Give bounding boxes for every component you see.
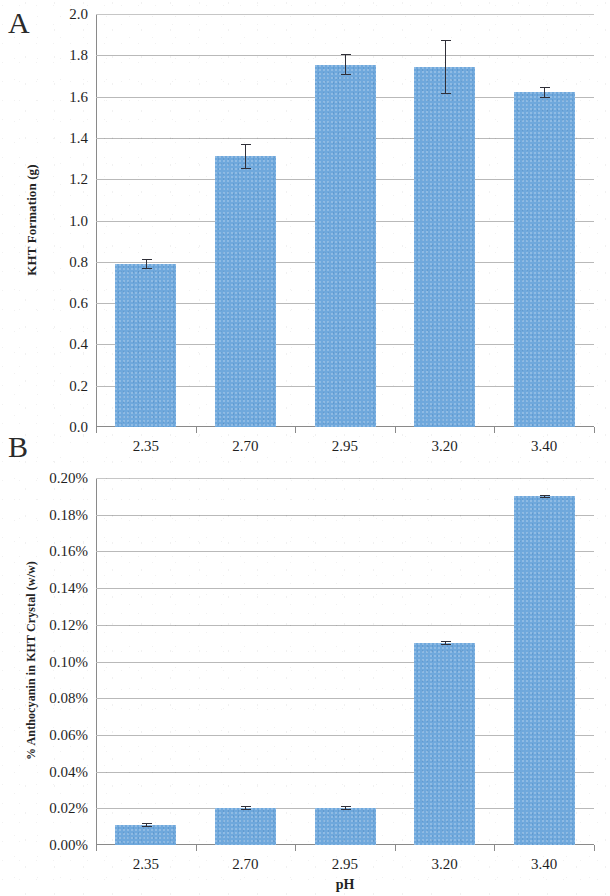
error-bar-cap-bottom: [241, 809, 251, 810]
y-tick-label: 0.08%: [49, 691, 88, 706]
error-bar-cap-top: [341, 54, 351, 55]
bar-3-20: [414, 643, 475, 845]
x-tick-label: 3.40: [494, 857, 594, 872]
x-tick-mark: [295, 845, 296, 851]
y-axis-title-panel-a: KHT Formation (g): [23, 13, 39, 426]
panel-a-kht-formation: A KHT Formation (g) 0.00.20.40.60.81.01.…: [0, 0, 610, 432]
y-tick-label: 1.4: [69, 131, 88, 146]
error-bar-2-35: [146, 259, 147, 269]
y-tick-label: 0.16%: [49, 544, 88, 559]
x-tick-label: 2.95: [295, 857, 395, 872]
x-axis-title-ph: pH: [96, 877, 594, 893]
y-tick-label: 0.04%: [49, 765, 88, 780]
y-tick-label: 0.6: [69, 296, 88, 311]
error-bar-3-40: [544, 87, 545, 97]
error-bar-cap-top: [441, 40, 451, 41]
y-tick-label: 0.8: [69, 255, 88, 270]
error-bar-2-35: [146, 823, 147, 827]
error-bar-cap-bottom: [540, 497, 550, 498]
error-bar-2-70: [245, 144, 246, 169]
error-bar-cap-bottom: [341, 809, 351, 810]
y-tick-label: 0.18%: [49, 508, 88, 523]
y-tick-label: 0.4: [69, 337, 88, 352]
y-tick-label: 1.8: [69, 48, 88, 63]
y-tick-label: 1.6: [69, 90, 88, 105]
gridline: [96, 478, 594, 479]
error-bar-cap-top: [142, 259, 152, 260]
bar-2-70: [215, 156, 276, 427]
y-tick-label: 1.2: [69, 172, 88, 187]
error-bar-3-40: [544, 495, 545, 499]
bar-2-70: [215, 808, 276, 845]
error-bar-cap-bottom: [142, 268, 152, 269]
gridline: [96, 14, 594, 15]
error-bar-2-70: [245, 806, 246, 810]
error-bar-cap-bottom: [441, 644, 451, 645]
y-tick-label: 0.2: [69, 379, 88, 394]
error-bar-3-20: [445, 40, 446, 94]
error-bar-cap-bottom: [241, 168, 251, 169]
x-tick-mark: [395, 845, 396, 851]
figure-two-panel-bar-charts: A KHT Formation (g) 0.00.20.40.60.81.01.…: [0, 0, 610, 896]
error-bar-cap-top: [441, 641, 451, 642]
y-tick-label: 0.12%: [49, 618, 88, 633]
error-bar-cap-top: [241, 806, 251, 807]
error-bar-cap-top: [540, 87, 550, 88]
bar-2-95: [315, 808, 376, 845]
error-bar-cap-bottom: [142, 826, 152, 827]
y-axis-title-panel-b: % Anthocyanin in KHT Crystal (w/w): [24, 477, 39, 844]
error-bar-cap-top: [142, 823, 152, 824]
y-tick-label: 0.02%: [49, 801, 88, 816]
x-tick-mark: [96, 845, 97, 851]
error-bar-2-95: [345, 54, 346, 75]
bar-3-40: [514, 496, 575, 845]
y-tick-label: 0.06%: [49, 728, 88, 743]
error-bar-3-20: [445, 641, 446, 645]
x-tick-label: 2.35: [96, 857, 196, 872]
error-bar-2-95: [345, 806, 346, 810]
y-tick-label: 2.0: [69, 7, 88, 22]
error-bar-cap-top: [540, 495, 550, 496]
error-bar-cap-bottom: [441, 93, 451, 94]
error-bar-cap-top: [341, 806, 351, 807]
error-bar-cap-bottom: [341, 74, 351, 75]
panel-label-b: B: [8, 432, 28, 462]
x-tick-mark: [494, 845, 495, 851]
y-tick-label: 0.14%: [49, 581, 88, 596]
y-tick-label: 0.10%: [49, 655, 88, 670]
x-tick-label: 3.20: [395, 857, 495, 872]
x-tick-label: 2.70: [196, 857, 296, 872]
error-bar-cap-bottom: [540, 97, 550, 98]
bar-3-40: [514, 92, 575, 427]
y-tick-label: 1.0: [69, 214, 88, 229]
bar-2-35: [115, 264, 176, 427]
bar-3-20: [414, 67, 475, 427]
bar-2-95: [315, 65, 376, 427]
y-tick-label: 0.00%: [49, 838, 88, 853]
x-tick-mark: [594, 845, 595, 851]
error-bar-cap-top: [241, 144, 251, 145]
bar-2-35: [115, 825, 176, 845]
panel-b-anthocyanin: B % Anthocyanin in KHT Crystal (w/w) 0.0…: [0, 432, 610, 896]
x-tick-mark: [196, 845, 197, 851]
y-tick-label: 0.20%: [49, 471, 88, 486]
